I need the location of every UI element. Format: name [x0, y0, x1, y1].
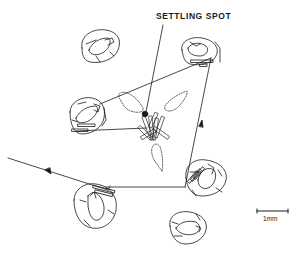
central-cluster	[138, 112, 170, 140]
scale-bar	[257, 209, 288, 213]
plant-mid-left	[70, 98, 106, 134]
settling-spot-label: SETTLING SPOT	[156, 11, 231, 21]
diagram-canvas	[0, 0, 298, 253]
plant-top-left	[82, 30, 120, 63]
arrow-icon	[199, 120, 203, 127]
plant-mid-right	[186, 160, 227, 196]
plant-bottom-left	[74, 184, 116, 229]
arrow-icon	[45, 168, 51, 174]
dotted-loops	[119, 91, 187, 171]
plant-bottom-right	[170, 212, 207, 244]
settling-spot-pointer	[146, 25, 163, 112]
flight-path	[8, 58, 211, 190]
scale-bar-label: 1mm	[263, 215, 277, 222]
plant-top-right	[182, 38, 220, 67]
